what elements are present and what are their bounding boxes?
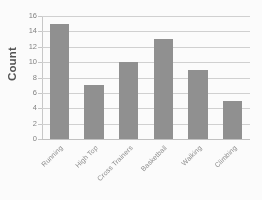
x-label-slot: Climbing (215, 141, 250, 200)
x-tick-label: Running (40, 144, 64, 168)
bar (50, 24, 69, 139)
bar (84, 85, 103, 139)
chart-title (60, 0, 210, 5)
y-tick-mark (38, 16, 42, 17)
bar-slot (111, 16, 146, 139)
y-tick-mark (38, 93, 42, 94)
bar-slot (42, 16, 77, 139)
y-tick-label: 16 (5, 12, 37, 20)
x-label-slot: Walking (181, 141, 216, 200)
y-tick-mark (38, 62, 42, 63)
y-tick-mark (38, 78, 42, 79)
y-tick-label: 12 (5, 43, 37, 51)
y-tick-label: 0 (5, 135, 37, 143)
y-tick-mark (38, 47, 42, 48)
bar (223, 101, 242, 139)
x-label-slot: Cross Trainers (111, 141, 146, 200)
y-tick-label: 14 (5, 27, 37, 35)
y-tick-mark (38, 108, 42, 109)
x-axis-tick-labels: RunningHigh TopCross TrainersBasketballW… (42, 141, 250, 200)
bar-chart: Count 0246810121416 RunningHigh TopCross… (0, 0, 262, 200)
y-tick-mark (38, 139, 42, 140)
y-tick-label: 10 (5, 58, 37, 66)
bar (154, 39, 173, 139)
bar (119, 62, 138, 139)
y-tick-mark (38, 124, 42, 125)
x-label-slot: Running (42, 141, 77, 200)
plot-area (42, 16, 250, 139)
bar-slot (215, 16, 250, 139)
bar-slot (77, 16, 112, 139)
bar (188, 70, 207, 139)
bar-slot (181, 16, 216, 139)
y-tick-label: 6 (5, 89, 37, 97)
x-tick-label: Walking (180, 144, 203, 167)
y-axis-tick-labels: 0246810121416 (0, 0, 37, 200)
y-tick-label: 8 (5, 74, 37, 82)
y-tick-mark (38, 31, 42, 32)
bar-slot (146, 16, 181, 139)
x-tick-label: High Top (74, 144, 99, 169)
y-tick-label: 4 (5, 104, 37, 112)
x-label-slot: Basketball (146, 141, 181, 200)
gridline (42, 139, 250, 140)
x-tick-label: Climbing (213, 144, 238, 169)
y-tick-label: 2 (5, 120, 37, 128)
